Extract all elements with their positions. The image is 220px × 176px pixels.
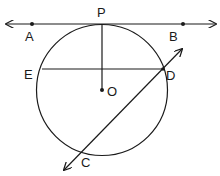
label-e: E (24, 67, 33, 82)
label-a: A (25, 29, 34, 44)
point-o (100, 88, 104, 92)
point-b (181, 22, 185, 26)
label-b: B (169, 29, 178, 44)
point-a (30, 22, 34, 26)
geometry-diagram: P A B E D O C (0, 0, 220, 176)
diagram-canvas: P A B E D O C (0, 0, 220, 176)
point-d (161, 67, 165, 71)
label-o: O (107, 84, 117, 99)
label-c: C (81, 155, 90, 170)
label-d: D (166, 68, 175, 83)
label-p: P (97, 5, 106, 20)
